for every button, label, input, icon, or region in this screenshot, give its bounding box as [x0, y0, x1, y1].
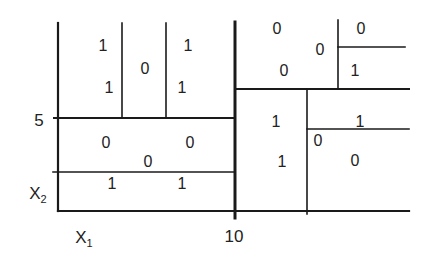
cell-label: 1 [108, 176, 117, 192]
cell-label: 1 [272, 114, 281, 130]
cell-label: 1 [178, 80, 187, 96]
y-axis-label-sub: 2 [41, 193, 47, 205]
cell-label: 0 [316, 42, 325, 58]
cell-label: 1 [105, 80, 114, 96]
cell-label: 1 [356, 114, 365, 130]
cell-label: 1 [351, 63, 360, 79]
x-tick-10: 10 [225, 228, 244, 245]
y-axis-label: X2 [29, 185, 46, 208]
cell-label: 0 [102, 135, 111, 151]
x-axis-label-text: X [75, 228, 86, 247]
cell-label: 1 [184, 38, 193, 54]
x-axis-label-sub: 1 [87, 237, 93, 249]
cell-label: 0 [357, 21, 366, 37]
cell-label: 0 [280, 63, 289, 79]
cell-label: 0 [273, 21, 282, 37]
cell-label: 0 [351, 153, 360, 169]
cell-label: 0 [141, 61, 150, 77]
partition-lines [0, 0, 427, 264]
cell-label: 1 [99, 38, 108, 54]
cell-label: 1 [278, 154, 287, 170]
cell-label: 0 [186, 135, 195, 151]
cell-label: 0 [144, 154, 153, 170]
cell-label: 1 [178, 176, 187, 192]
y-tick-5: 5 [34, 112, 43, 129]
cell-label: 0 [314, 133, 323, 149]
y-axis-label-text: X [29, 184, 40, 203]
x-axis-label: X1 [75, 229, 92, 252]
